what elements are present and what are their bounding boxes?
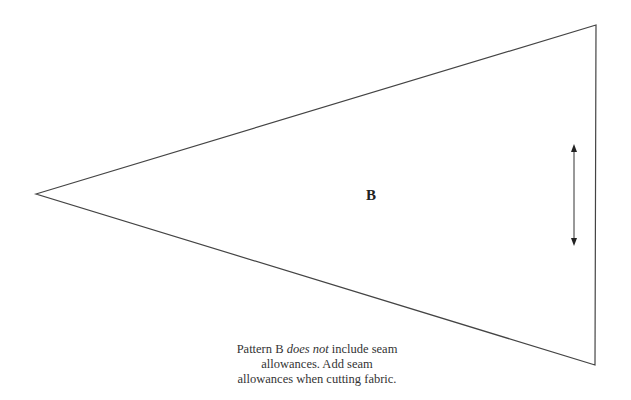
pattern-label: B — [366, 187, 376, 204]
seam-allowance-note: Pattern B does not include seam allowanc… — [232, 342, 402, 387]
note-emphasis: does not — [287, 342, 329, 356]
pattern-piece-b — [0, 0, 631, 400]
triangle-outline — [36, 25, 596, 365]
grainline-arrow-icon — [571, 144, 577, 246]
note-text-1: Pattern B — [237, 342, 287, 356]
